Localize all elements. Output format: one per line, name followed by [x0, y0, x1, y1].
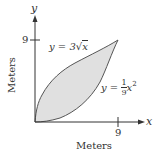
y-axis-title: Meters [7, 55, 17, 95]
x-axis-name: x [146, 116, 152, 127]
x-axis-title: Meters [76, 141, 112, 151]
x-axis-arrow-icon [138, 120, 145, 125]
y-axis-name: y [31, 3, 37, 14]
y-axis-arrow-icon [33, 15, 38, 22]
y-tick-label: 9 [22, 35, 28, 45]
equation-upper-curve: y = 3√x [49, 42, 88, 52]
equation-lower-curve: y = 19x2 [101, 78, 137, 97]
x-tick-label: 9 [115, 128, 121, 138]
